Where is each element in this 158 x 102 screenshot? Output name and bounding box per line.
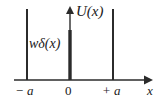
x-axis-label: x — [147, 84, 153, 97]
u-axis-arrowhead-icon — [66, 6, 74, 14]
u-axis-label: U(x) — [76, 4, 103, 19]
x-axis — [14, 76, 153, 85]
tick-label-zero: 0 — [65, 84, 72, 97]
potential-well-figure: U(x) wδ(x) x − a 0 + a — [0, 0, 158, 102]
tick-label-plus-a: + a — [102, 84, 121, 97]
delta-well-label: wδ(x) — [29, 37, 60, 51]
tick-label-minus-a: − a — [15, 84, 34, 97]
